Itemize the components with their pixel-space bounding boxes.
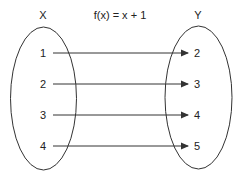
domain-element-3: 3 xyxy=(40,109,46,121)
codomain-element-4: 4 xyxy=(194,109,200,121)
function-title: f(x) = x + 1 xyxy=(94,9,147,21)
domain-element-2: 2 xyxy=(40,78,46,90)
codomain-element-2: 2 xyxy=(194,47,200,59)
set-x-label: X xyxy=(39,9,47,21)
domain-element-4: 4 xyxy=(40,140,46,152)
codomain-element-5: 5 xyxy=(194,140,200,152)
codomain-element-3: 3 xyxy=(194,78,200,90)
function-mapping-diagram: X f(x) = x + 1 Y 1 2 3 4 2 3 4 5 xyxy=(0,0,240,183)
set-y-label: Y xyxy=(194,9,202,21)
domain-element-1: 1 xyxy=(40,47,46,59)
